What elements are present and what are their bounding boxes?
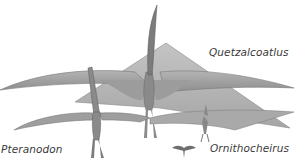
small-bird-silhouette: [172, 146, 196, 158]
pterosaur-comparison-figure: Quetzalcoatlus Ornithocheirus Pteranodon: [0, 0, 295, 161]
label-quetzalcoatlus: Quetzalcoatlus: [209, 46, 289, 58]
silhouettes-illustration: [0, 0, 295, 161]
label-pteranodon: Pteranodon: [1, 143, 62, 155]
label-ornithocheirus: Ornithocheirus: [210, 142, 289, 154]
